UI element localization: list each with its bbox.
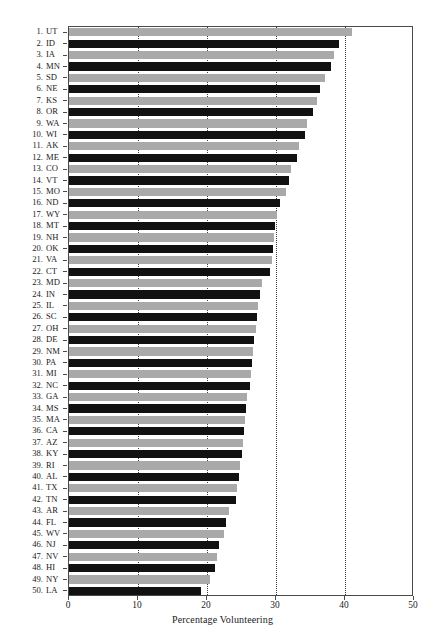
y-tick-mark bbox=[63, 226, 67, 227]
bar-nd bbox=[69, 199, 280, 207]
y-tick-rank: 17. bbox=[22, 210, 43, 219]
y-tick-wv: 45.WV bbox=[0, 528, 68, 539]
x-axis-ticks: 01020304050 bbox=[0, 596, 445, 614]
y-tick-rank: 26. bbox=[22, 312, 43, 321]
bar-id bbox=[69, 40, 339, 48]
y-tick-hi: 48.HI bbox=[0, 562, 68, 573]
bar-row bbox=[69, 426, 412, 437]
y-tick-mark bbox=[63, 328, 67, 329]
y-tick-mark bbox=[63, 32, 67, 33]
y-tick-mark bbox=[63, 317, 67, 318]
y-tick-id: 2.ID bbox=[0, 37, 68, 48]
bar-row bbox=[69, 449, 412, 460]
y-tick-nj: 46.NJ bbox=[0, 539, 68, 550]
bar-row bbox=[69, 209, 412, 220]
bar-row bbox=[69, 95, 412, 106]
y-tick-rank: 15. bbox=[22, 187, 43, 196]
y-tick-mark bbox=[63, 43, 67, 44]
y-tick-rank: 5. bbox=[22, 73, 43, 82]
y-tick-rank: 40. bbox=[22, 472, 43, 481]
y-tick-mark bbox=[63, 568, 67, 569]
bar-row bbox=[69, 437, 412, 448]
y-tick-ok: 20.OK bbox=[0, 243, 68, 254]
y-tick-rank: 11. bbox=[22, 141, 43, 150]
y-tick-rank: 31. bbox=[22, 369, 43, 378]
y-tick-mark bbox=[63, 237, 67, 238]
bar-wy bbox=[69, 211, 277, 219]
bar-row bbox=[69, 392, 412, 403]
y-tick-mark bbox=[63, 271, 67, 272]
bar-ar bbox=[69, 507, 229, 515]
bar-ne bbox=[69, 85, 320, 93]
bar-va bbox=[69, 256, 272, 264]
y-tick-rank: 34. bbox=[22, 404, 43, 413]
bar-row bbox=[69, 403, 412, 414]
bar-wa bbox=[69, 119, 307, 127]
y-tick-mark bbox=[63, 419, 67, 420]
y-tick-rank: 38. bbox=[22, 449, 43, 458]
bar-ks bbox=[69, 97, 317, 105]
bar-ga bbox=[69, 393, 247, 401]
bar-row bbox=[69, 563, 412, 574]
y-tick-mark bbox=[63, 397, 67, 398]
y-tick-pa: 30.PA bbox=[0, 357, 68, 368]
y-tick-nh: 19.NH bbox=[0, 231, 68, 242]
y-axis-labels: 1.UT2.ID3.IA4.MN5.SD6.NE7.KS8.OR9.WA10.W… bbox=[0, 26, 68, 596]
x-tick-label-50: 50 bbox=[408, 601, 417, 610]
bar-sd bbox=[69, 74, 325, 82]
x-tick-label-20: 20 bbox=[201, 601, 210, 610]
y-tick-ms: 34.MS bbox=[0, 402, 68, 413]
bar-pa bbox=[69, 359, 252, 367]
y-tick-mark bbox=[63, 214, 67, 215]
y-tick-mark bbox=[63, 100, 67, 101]
bar-row bbox=[69, 141, 412, 152]
x-tick-label-0: 0 bbox=[66, 601, 71, 610]
y-tick-mark bbox=[63, 351, 67, 352]
y-tick-rank: 1. bbox=[22, 27, 43, 36]
y-tick-ak: 11.AK bbox=[0, 140, 68, 151]
bar-row bbox=[69, 187, 412, 198]
y-tick-rank: 39. bbox=[22, 461, 43, 470]
bar-row bbox=[69, 472, 412, 483]
y-tick-nv: 47.NV bbox=[0, 550, 68, 561]
bar-rows bbox=[69, 27, 412, 595]
bar-row bbox=[69, 175, 412, 186]
bar-row bbox=[69, 323, 412, 334]
bar-ky bbox=[69, 450, 242, 458]
y-tick-mark bbox=[63, 260, 67, 261]
bar-row bbox=[69, 369, 412, 380]
bar-row bbox=[69, 415, 412, 426]
bar-row bbox=[69, 232, 412, 243]
y-tick-rank: 33. bbox=[22, 392, 43, 401]
y-tick-rank: 28. bbox=[22, 335, 43, 344]
y-tick-rank: 6. bbox=[22, 84, 43, 93]
y-tick-rank: 7. bbox=[22, 96, 43, 105]
y-tick-mo: 15.MO bbox=[0, 186, 68, 197]
y-tick-rank: 32. bbox=[22, 381, 43, 390]
y-tick-mark bbox=[63, 385, 67, 386]
bar-tx bbox=[69, 484, 237, 492]
y-tick-mark bbox=[63, 442, 67, 443]
bar-row bbox=[69, 289, 412, 300]
y-tick-md: 23.MD bbox=[0, 277, 68, 288]
y-tick-ks: 7.KS bbox=[0, 94, 68, 105]
bar-la bbox=[69, 587, 201, 595]
bar-row bbox=[69, 266, 412, 277]
bar-mn bbox=[69, 62, 331, 70]
y-tick-mark bbox=[63, 248, 67, 249]
bar-row bbox=[69, 529, 412, 540]
bar-row bbox=[69, 278, 412, 289]
y-tick-mark bbox=[63, 191, 67, 192]
bar-row bbox=[69, 84, 412, 95]
bar-ca bbox=[69, 427, 244, 435]
y-tick-mark bbox=[63, 522, 67, 523]
y-tick-mark bbox=[63, 305, 67, 306]
y-tick-mark bbox=[63, 465, 67, 466]
y-tick-nc: 32.NC bbox=[0, 379, 68, 390]
y-tick-rank: 29. bbox=[22, 347, 43, 356]
y-tick-mark bbox=[63, 362, 67, 363]
bar-row bbox=[69, 118, 412, 129]
y-tick-mark bbox=[63, 533, 67, 534]
bar-or bbox=[69, 108, 313, 116]
bar-row bbox=[69, 73, 412, 84]
